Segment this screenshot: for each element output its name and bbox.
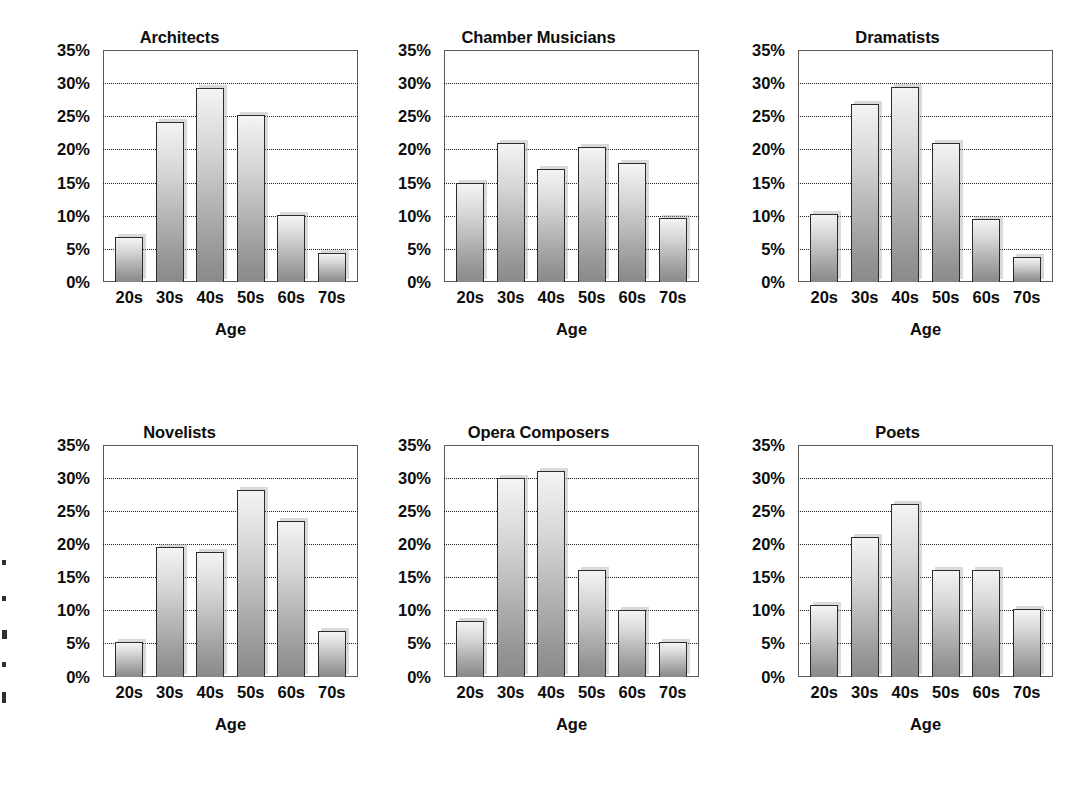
bar-slot (572, 445, 613, 677)
y-axis-tick-label: 15% (57, 173, 90, 192)
x-axis-tick-label: 30s (845, 683, 886, 702)
x-axis-tick-labels: 20s30s40s50s60s70s (444, 288, 699, 307)
x-axis-tick-label: 30s (491, 288, 532, 307)
bar-slot (450, 50, 491, 282)
bar (456, 183, 484, 282)
y-axis-tick-label: 15% (57, 568, 90, 587)
x-axis-tick-label: 40s (531, 683, 572, 702)
y-axis-tick-label: 10% (752, 206, 785, 225)
x-axis-tick-label: 60s (966, 288, 1007, 307)
chart-panel: Chamber Musicians0%5%10%15%20%25%30%35%2… (359, 0, 718, 395)
bar-slot (885, 50, 926, 282)
y-axis-tick-label: 35% (752, 41, 785, 60)
bar-slot (150, 50, 191, 282)
bar (1013, 609, 1041, 677)
x-axis-tick-label: 30s (150, 288, 191, 307)
bar (115, 642, 143, 676)
panel-title: Novelists (0, 423, 359, 442)
bar-slot (312, 445, 353, 677)
y-axis-tick-labels: 0%5%10%15%20%25%30%35% (377, 50, 439, 282)
x-axis-title: Age (444, 715, 699, 734)
y-axis-tick-labels: 0%5%10%15%20%25%30%35% (377, 445, 439, 677)
bar-slot (109, 50, 150, 282)
bar-slot (845, 445, 886, 677)
bar (156, 122, 184, 282)
bar (618, 610, 646, 677)
y-axis-tick-label: 15% (752, 568, 785, 587)
x-axis-tick-labels: 20s30s40s50s60s70s (103, 288, 358, 307)
y-axis-tick-label: 35% (57, 41, 90, 60)
x-axis-tick-labels: 20s30s40s50s60s70s (798, 683, 1053, 702)
y-axis-tick-label: 5% (407, 634, 431, 653)
bar-group (444, 50, 699, 282)
bar-slot (271, 50, 312, 282)
bar-slot (653, 50, 694, 282)
x-axis-tick-label: 50s (926, 683, 967, 702)
x-axis-tick-label: 40s (531, 288, 572, 307)
x-axis-tick-label: 20s (109, 683, 150, 702)
bar-slot (231, 445, 272, 677)
y-axis-tick-label: 30% (752, 74, 785, 93)
y-axis-tick-label: 35% (398, 41, 431, 60)
bar-slot (1007, 50, 1048, 282)
x-axis-tick-label: 60s (966, 683, 1007, 702)
bar-slot (491, 50, 532, 282)
y-axis-tick-label: 20% (398, 140, 431, 159)
bar-slot (231, 50, 272, 282)
x-axis-tick-label: 60s (612, 288, 653, 307)
bar-slot (653, 445, 694, 677)
bar (851, 537, 879, 676)
bar (659, 642, 687, 676)
y-axis-tick-label: 0% (761, 273, 785, 292)
y-axis-tick-label: 30% (398, 468, 431, 487)
bar (537, 471, 565, 676)
y-axis-tick-labels: 0%5%10%15%20%25%30%35% (36, 50, 98, 282)
x-axis-tick-label: 40s (190, 288, 231, 307)
y-axis-tick-label: 30% (752, 468, 785, 487)
bar-slot (804, 445, 845, 677)
y-axis-tick-label: 10% (752, 601, 785, 620)
y-axis-tick-label: 35% (752, 435, 785, 454)
x-axis-title: Age (103, 715, 358, 734)
bar (196, 88, 224, 282)
bar (497, 143, 525, 282)
chart-panel: Opera Composers0%5%10%15%20%25%30%35%20s… (359, 395, 718, 789)
bar-group (103, 445, 358, 677)
bar (972, 570, 1000, 676)
bar-slot (531, 50, 572, 282)
bar (810, 605, 838, 677)
y-axis-tick-label: 10% (398, 206, 431, 225)
y-axis-tick-label: 0% (407, 667, 431, 686)
bar (891, 504, 919, 676)
y-axis-tick-label: 30% (57, 468, 90, 487)
x-axis-title: Age (798, 320, 1053, 339)
bar (932, 570, 960, 676)
bar-slot (531, 445, 572, 677)
bar-slot (271, 445, 312, 677)
y-axis-tick-label: 25% (57, 501, 90, 520)
x-axis-tick-label: 70s (312, 683, 353, 702)
x-axis-tick-label: 50s (572, 683, 613, 702)
x-axis-tick-label: 50s (926, 288, 967, 307)
bar-group (444, 445, 699, 677)
bar-slot (190, 50, 231, 282)
bar-slot (1007, 445, 1048, 677)
bar (156, 547, 184, 676)
bar-slot (612, 50, 653, 282)
x-axis-title: Age (444, 320, 699, 339)
bar (851, 104, 879, 282)
bar-slot (491, 445, 532, 677)
bar-slot (612, 445, 653, 677)
x-axis-tick-label: 20s (109, 288, 150, 307)
bar (932, 143, 960, 282)
y-axis-tick-label: 25% (398, 501, 431, 520)
bar (659, 218, 687, 282)
bar-group (798, 445, 1053, 677)
bar (237, 490, 265, 677)
bar-group (103, 50, 358, 282)
bar (891, 87, 919, 282)
y-axis-tick-label: 25% (398, 107, 431, 126)
x-axis-tick-label: 70s (653, 288, 694, 307)
y-axis-tick-label: 10% (57, 206, 90, 225)
y-axis-tick-label: 0% (407, 273, 431, 292)
